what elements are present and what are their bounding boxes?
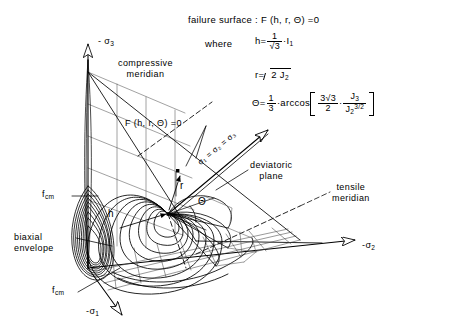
axis-label-sigma2: -σ2 (362, 240, 375, 252)
annotation-fcm-upper: fcm (42, 189, 55, 201)
formula-h: h=1√3·I1 (255, 32, 293, 52)
annotation-biaxial-envelope: biaxial envelope (14, 232, 54, 253)
formula-r: r=2 J2 (255, 68, 291, 81)
marker-label-h: h (108, 208, 114, 220)
stress-space-drawing (0, 0, 449, 330)
marker-label-r: r (180, 180, 184, 192)
tensile-leader (300, 192, 330, 206)
annotation-deviatoric-plane: deviatoric plane (250, 160, 293, 181)
annotation-surface-equation: F (h, r, Θ) =0 (125, 118, 182, 129)
where-label: where (205, 38, 232, 49)
marker-label-theta: Θ (198, 196, 206, 208)
annotation-compressive-meridian: compressive meridian (118, 58, 173, 79)
annotation-tensile-meridian: tensile meridian (332, 182, 370, 203)
annotation-fcm-lower: fcm (52, 285, 65, 297)
axis-label-sigma1: -σ1 (86, 306, 99, 318)
formula-theta: Θ=13·arccos3√32·J3J23/2 (252, 92, 374, 116)
figure-title: failure surface : F (h, r, Θ) =0 (188, 14, 319, 25)
failure-surface-figure: failure surface : F (h, r, Θ) =0 where h… (0, 0, 449, 330)
axis-lines (88, 44, 355, 315)
axis-label-sigma3: - σ3 (98, 36, 114, 48)
